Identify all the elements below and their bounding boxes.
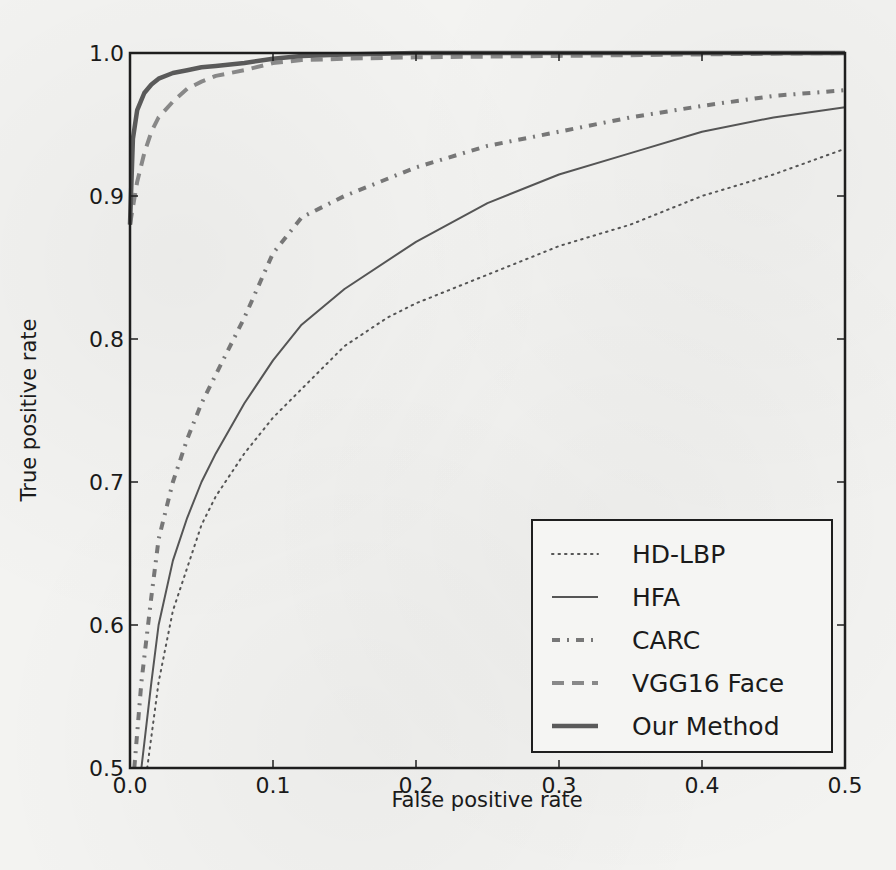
curve-our-method	[130, 53, 845, 225]
y-tick-label: 0.8	[89, 327, 124, 352]
x-tick-label: 0.1	[256, 773, 291, 798]
y-tick-label: 1.0	[89, 41, 124, 66]
legend-label: CARC	[632, 626, 700, 655]
legend-label: Our Method	[632, 712, 780, 741]
legend: HD-LBPHFACARCVGG16 FaceOur Method	[532, 520, 832, 752]
y-tick-label: 0.6	[89, 613, 124, 638]
y-tick-label: 0.7	[89, 470, 124, 495]
legend-label: VGG16 Face	[632, 669, 784, 698]
x-tick-label: 0.4	[685, 773, 720, 798]
y-tick-label: 0.5	[89, 756, 124, 781]
roc-chart: 0.00.10.20.30.40.5 0.50.60.70.80.91.0 Fa…	[0, 0, 896, 870]
legend-label: HD-LBP	[632, 540, 725, 569]
x-tick-label: 0.5	[828, 773, 863, 798]
x-axis-label: False positive rate	[391, 788, 582, 812]
y-axis-label: True positive rate	[17, 319, 41, 503]
y-tick-label: 0.9	[89, 184, 124, 209]
curve-vgg16-face	[130, 53, 845, 225]
legend-label: HFA	[632, 583, 680, 612]
